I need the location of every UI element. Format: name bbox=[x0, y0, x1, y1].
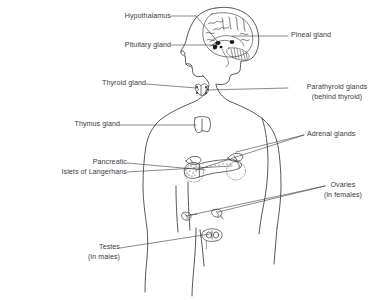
label-adrenal-glands: Adrenal glands bbox=[307, 130, 355, 140]
endocrine-system-diagram: Hypothalamus Pituitary gland Thyroid gla… bbox=[0, 0, 384, 300]
label-thyroid-gland: Thyroid gland bbox=[43, 79, 146, 89]
label-ovaries-line2: (in females) bbox=[310, 191, 376, 201]
body-outline bbox=[143, 85, 281, 296]
label-pineal-gland-text: Pineal gland bbox=[291, 31, 331, 39]
label-pancreatic-islets: Pancreatic Islets of Langerhans bbox=[14, 158, 127, 177]
label-thymus-gland-text: Thymus gland bbox=[74, 120, 120, 128]
label-testes-line1: Testes bbox=[30, 243, 120, 253]
label-pituitary-gland: Pituitary gland bbox=[58, 41, 171, 51]
testes bbox=[202, 229, 222, 249]
label-testes-line2: (in males) bbox=[30, 253, 120, 263]
label-hypothalamus-text: Hypothalamus bbox=[125, 12, 171, 20]
parathyroid-glands bbox=[196, 86, 207, 94]
leader-ovaries-2 bbox=[218, 186, 325, 212]
label-parathyroid-glands: Parathyroid glands (behind thyroid) bbox=[291, 83, 383, 102]
leader-ovaries-1 bbox=[186, 186, 325, 216]
label-ovaries: Ovaries (in females) bbox=[310, 181, 376, 200]
hypothalamus-pituitary bbox=[213, 41, 223, 49]
leader-adrenal-1 bbox=[196, 135, 304, 170]
leader-islets bbox=[127, 166, 232, 172]
label-parathyroid-line2: (behind thyroid) bbox=[291, 93, 383, 103]
label-pineal-gland: Pineal gland bbox=[291, 31, 331, 41]
leader-adrenal-2 bbox=[236, 135, 304, 152]
leader-testes bbox=[120, 234, 210, 248]
label-testes: Testes (in males) bbox=[30, 243, 120, 262]
leader-thyroid bbox=[146, 84, 196, 88]
label-thymus-gland: Thymus gland bbox=[20, 120, 120, 130]
label-hypothalamus: Hypothalamus bbox=[58, 12, 171, 22]
ovaries bbox=[182, 209, 223, 220]
label-pancreatic-line2: Islets of Langerhans bbox=[14, 168, 127, 178]
thymus-gland bbox=[194, 117, 210, 133]
head-profile bbox=[181, 7, 259, 84]
label-ovaries-line1: Ovaries bbox=[310, 181, 376, 191]
label-adrenal-glands-text: Adrenal glands bbox=[307, 130, 355, 138]
cerebellum bbox=[222, 48, 249, 67]
label-thyroid-gland-text: Thyroid gland bbox=[102, 79, 146, 87]
label-parathyroid-line1: Parathyroid glands bbox=[291, 83, 383, 93]
label-pituitary-gland-text: Pituitary gland bbox=[125, 41, 171, 49]
brain bbox=[203, 13, 253, 57]
pineal-gland bbox=[230, 40, 235, 44]
label-pancreatic-line1: Pancreatic bbox=[14, 158, 127, 168]
